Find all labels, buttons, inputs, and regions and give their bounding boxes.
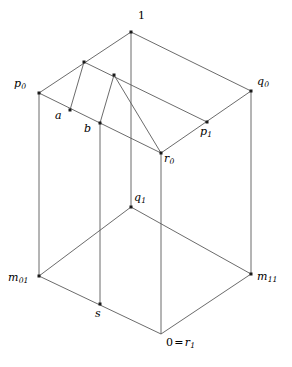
vertex-label-q1: q1 [134,192,146,203]
vertex-dot-a [69,109,72,112]
vertex-dot-b [99,122,102,125]
diagram-edge-b-anon2 [100,75,114,123]
vertex-label-m01: m01 [8,272,28,283]
vertex-dot-r0 [160,152,163,155]
vertex-dot-p1 [206,121,209,124]
diagram-edge-r1-m11 [161,274,251,334]
vertex-label-zero-eq-r1: 0=r1 [166,337,195,348]
vertex-label-one: 1 [138,10,145,21]
vertex-dot-m01 [38,275,41,278]
vertex-label-p0: p0 [14,78,26,89]
vertex-dot-m11 [250,273,253,276]
vertex-dot-q0 [250,90,253,93]
vertex-label-s: s [95,308,101,319]
vertex-label-m11: m11 [257,271,277,282]
vertex-dot-q1 [130,206,133,209]
diagram-edge-q1-m11 [131,207,251,274]
vertex-label-a: a [55,110,62,121]
vertex-dot-one [130,31,133,34]
vertex-dot-layer [38,31,253,306]
lattice-diagram: 1p0q0abp1r0q1m01m11s0=r1 [0,0,292,367]
vertex-dot-anon1 [83,61,86,64]
diagram-edge-1-q0 [131,32,251,91]
diagram-edge-m01-q1 [39,207,131,276]
diagram-canvas [0,0,292,367]
vertex-label-q0: q0 [257,76,269,87]
diagram-edge-a-anon1 [70,62,84,110]
edge-layer [39,32,251,334]
vertex-dot-anon2 [113,74,116,77]
vertex-label-b: b [84,123,91,134]
vertex-dot-p0 [38,92,41,95]
vertex-label-r0: r0 [164,153,174,164]
vertex-label-p1: p1 [200,126,212,137]
vertex-dot-s [99,303,102,306]
